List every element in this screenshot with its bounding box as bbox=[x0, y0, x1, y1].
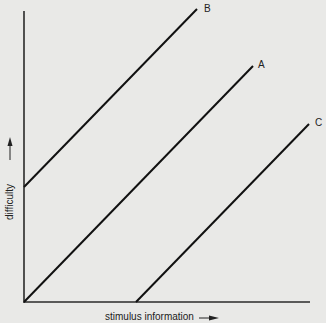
line-a bbox=[24, 66, 253, 302]
label-a: A bbox=[258, 59, 265, 70]
label-c: C bbox=[315, 117, 322, 128]
x-arrow-icon bbox=[199, 316, 219, 321]
line-b bbox=[24, 9, 197, 187]
y-axis-label: difficulty bbox=[4, 184, 15, 220]
y-arrow-icon bbox=[8, 137, 13, 160]
label-b: B bbox=[204, 3, 211, 14]
x-axis-label: stimulus information bbox=[105, 311, 194, 322]
diagram-canvas bbox=[0, 0, 326, 323]
line-c bbox=[136, 124, 309, 302]
